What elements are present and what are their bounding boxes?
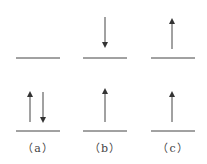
panel-b [83, 17, 127, 131]
panel-c-label: （c） [151, 139, 195, 155]
panel-b-label: （b） [83, 139, 127, 155]
panel-c [151, 21, 195, 131]
panel-a-label: （a） [16, 139, 60, 155]
panel-a [16, 58, 60, 131]
